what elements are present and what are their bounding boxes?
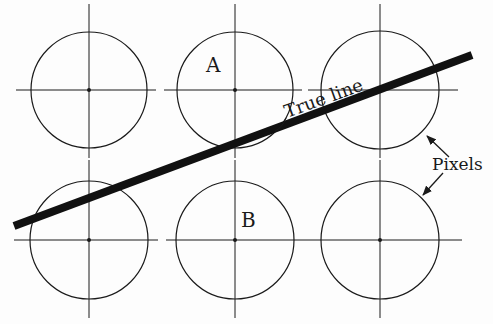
center-dot bbox=[87, 238, 91, 242]
label-pixels: Pixels bbox=[432, 154, 483, 174]
center-dot bbox=[233, 88, 237, 92]
label-a: A bbox=[205, 53, 221, 77]
pixel-diagram: A B True line Pixels bbox=[0, 0, 493, 324]
grid-lines bbox=[14, 4, 462, 318]
label-b: B bbox=[241, 208, 256, 232]
true-line bbox=[14, 55, 472, 226]
center-dot bbox=[378, 238, 382, 242]
center-dot bbox=[87, 88, 91, 92]
diagram-canvas: A B True line Pixels bbox=[0, 0, 493, 324]
center-dot bbox=[233, 238, 237, 242]
pixels-arrow-lower bbox=[423, 173, 443, 195]
